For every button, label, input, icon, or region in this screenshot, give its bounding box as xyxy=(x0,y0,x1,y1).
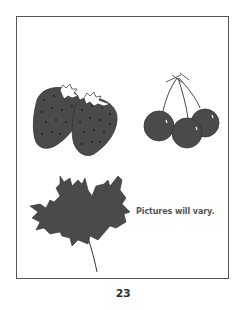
cherries-icon xyxy=(144,73,219,148)
page-number: 23 xyxy=(0,287,246,300)
maple-leaf-icon xyxy=(30,176,130,272)
illustration-canvas xyxy=(0,0,246,310)
strawberry-icon xyxy=(72,92,117,156)
caption-text: Pictures will vary. xyxy=(136,207,214,216)
